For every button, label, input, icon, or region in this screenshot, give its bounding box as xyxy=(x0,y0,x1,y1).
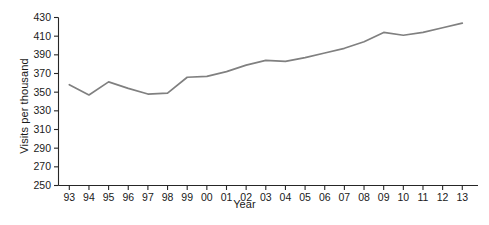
y-tick-label: 310 xyxy=(33,123,51,135)
y-tick-label: 330 xyxy=(33,104,51,116)
y-axis-title: Visits per thousand xyxy=(18,46,30,166)
y-axis: 250270290310330350370390410430 xyxy=(33,11,58,191)
y-tick-label: 390 xyxy=(33,48,51,60)
y-tick-label: 410 xyxy=(33,30,51,42)
chart-canvas: 250270290310330350370390410430 939495969… xyxy=(0,0,489,225)
y-tick-label: 430 xyxy=(33,11,51,23)
series-line xyxy=(69,23,462,95)
y-tick-label: 370 xyxy=(33,67,51,79)
data-series xyxy=(69,23,462,95)
x-axis-title: Year xyxy=(0,198,489,210)
y-tick-label: 250 xyxy=(33,179,51,191)
y-tick-label: 350 xyxy=(33,86,51,98)
y-tick-label: 290 xyxy=(33,142,51,154)
line-chart: 250270290310330350370390410430 939495969… xyxy=(0,0,489,225)
y-tick-label: 270 xyxy=(33,160,51,172)
